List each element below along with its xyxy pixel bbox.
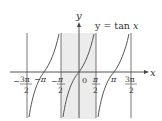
tick-neg-pi: −π [34, 75, 47, 84]
y-axis-label: y [75, 10, 82, 21]
tick-neg-3pi-2-den: 2 [24, 86, 29, 95]
tick-neg-3pi-2-num: 3π [20, 75, 30, 84]
tick-pi-2-num: π [92, 75, 99, 84]
tick-3pi-2-den: 2 [129, 86, 134, 95]
tick-pi: π [110, 75, 117, 84]
x-axis-label: x [150, 67, 156, 78]
tick-neg-pi-2-den: 2 [58, 86, 63, 95]
tan-graph: y x y = tan x − 3π 2 −π − π 2 0 π 2 π 3π… [0, 0, 162, 121]
tick-neg-3pi-2-minus: − [13, 77, 20, 86]
x-axis-arrow-icon [144, 70, 149, 74]
tick-neg-pi-2-minus: − [51, 77, 58, 86]
tick-3pi-2-num: 3π [125, 75, 135, 84]
equation-label: y = tan x [94, 20, 139, 31]
tick-zero: 0 [82, 76, 87, 85]
tick-pi-2-den: 2 [93, 86, 98, 95]
y-axis-arrow-icon [77, 22, 81, 27]
